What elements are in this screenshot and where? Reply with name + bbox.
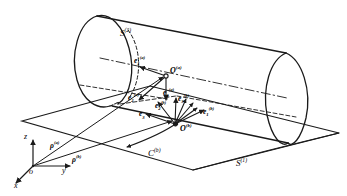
label-surface-S2: S(2): [120, 28, 131, 38]
label-vector-e3: e3: [139, 110, 145, 120]
point-marker-Ob: [173, 122, 177, 126]
label-axis-x: x: [14, 182, 18, 190]
label-axis-y: y: [62, 167, 66, 175]
position-vector-rho-a: [33, 77, 163, 166]
point-marker-Oa: [164, 74, 168, 78]
label-point-origin: o: [29, 168, 33, 176]
label-point-Oa: O(a): [170, 66, 182, 75]
figure-canvas: S(2) S(1) C(b) O(a) O(b) o z y x ρ(a) ρ(…: [0, 0, 347, 196]
vector-e3b: [175, 98, 176, 124]
label-surface-S1: S(1): [236, 158, 247, 168]
label-vector-e1a: e1(a): [134, 56, 145, 67]
label-rho-a: ρ(a): [50, 141, 59, 149]
label-vector-e3a: e3(a): [163, 88, 174, 99]
label-vector-e1b: e1(b): [203, 107, 214, 118]
label-curve-Cb: C(b): [148, 148, 161, 158]
vector-e1a: [140, 67, 166, 76]
label-vector-e3b: e3(b): [178, 94, 189, 105]
label-vector-e2a: e2(a): [128, 93, 139, 104]
contact-curve-Cb: [127, 123, 177, 147]
label-vector-e2b: e2(b): [155, 101, 166, 112]
label-axis-z: z: [24, 133, 27, 141]
label-rho-b: ρ(b): [72, 155, 81, 163]
label-point-Ob: O(b): [180, 124, 192, 133]
frame-vectors-Oa: [139, 67, 166, 100]
